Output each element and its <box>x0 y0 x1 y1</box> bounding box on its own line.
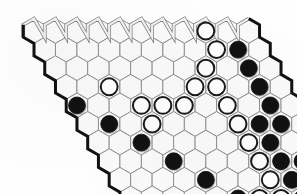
stone-disc[interactable] <box>101 78 118 95</box>
stone-disc[interactable] <box>262 171 279 188</box>
stone-disc[interactable] <box>273 116 290 133</box>
stone-disc[interactable] <box>273 153 290 170</box>
stone-disc[interactable] <box>283 171 297 188</box>
white-stone[interactable] <box>208 78 225 95</box>
white-stone[interactable] <box>144 116 161 133</box>
white-stone[interactable] <box>230 116 247 133</box>
stone-disc[interactable] <box>133 134 150 151</box>
white-stone[interactable] <box>208 41 225 58</box>
stone-disc[interactable] <box>197 171 214 188</box>
stone-disc[interactable] <box>262 134 279 151</box>
white-stone[interactable] <box>219 97 236 114</box>
stone-disc[interactable] <box>251 116 268 133</box>
stone-disc[interactable] <box>230 116 247 133</box>
white-stone[interactable] <box>240 134 257 151</box>
hex-board[interactable] <box>0 0 297 194</box>
stone-disc[interactable] <box>251 78 268 95</box>
stone-disc[interactable] <box>187 78 204 95</box>
white-stone[interactable] <box>176 97 193 114</box>
stone-disc[interactable] <box>176 97 193 114</box>
white-stone[interactable] <box>101 78 118 95</box>
stone-disc[interactable] <box>144 116 161 133</box>
stone-disc[interactable] <box>101 116 118 133</box>
white-stone[interactable] <box>251 153 268 170</box>
white-stone[interactable] <box>197 23 214 40</box>
stone-disc[interactable] <box>208 78 225 95</box>
stone-disc[interactable] <box>262 97 279 114</box>
stone-disc[interactable] <box>154 97 171 114</box>
white-stone[interactable] <box>262 171 279 188</box>
white-stone[interactable] <box>197 60 214 77</box>
white-stone[interactable] <box>187 78 204 95</box>
stone-disc[interactable] <box>208 41 225 58</box>
stone-disc[interactable] <box>230 41 247 58</box>
stone-disc[interactable] <box>197 60 214 77</box>
stone-disc[interactable] <box>165 153 182 170</box>
stone-disc[interactable] <box>251 153 268 170</box>
stone-disc[interactable] <box>69 97 86 114</box>
white-stone[interactable] <box>154 97 171 114</box>
stone-disc[interactable] <box>240 60 257 77</box>
stone-disc[interactable] <box>197 23 214 40</box>
stone-disc[interactable] <box>219 97 236 114</box>
white-stone[interactable] <box>133 97 150 114</box>
stone-disc[interactable] <box>133 97 150 114</box>
hex-board-figure <box>0 0 297 194</box>
stone-disc[interactable] <box>240 134 257 151</box>
